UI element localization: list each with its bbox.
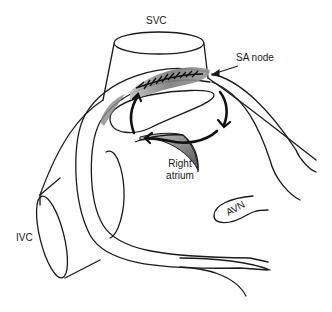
sa-node-pointer: [212, 66, 238, 76]
right-atrium-label-line2: atrium: [160, 170, 200, 181]
left-inner-lobe: [106, 151, 124, 238]
sa-node-label: SA node: [236, 52, 274, 63]
svc-label: SVC: [146, 15, 167, 26]
right-atrium-label-line1: Right: [160, 158, 200, 169]
lower-contours: [180, 258, 270, 296]
arrow-right-down: [220, 92, 227, 125]
arrow-left-up: [131, 96, 138, 133]
right-atrium-diagram: [0, 0, 332, 312]
ivc-label: IVC: [16, 232, 33, 243]
atrium-right-edge: [212, 74, 316, 200]
